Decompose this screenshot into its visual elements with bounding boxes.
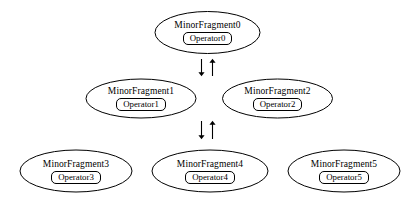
node-title-minor-fragment-2: MinorFragment2 — [244, 86, 310, 97]
operator-box-minor-fragment-0[interactable]: Operator0 — [183, 32, 233, 45]
operator-box-minor-fragment-4[interactable]: Operator4 — [185, 171, 235, 184]
node-title-minor-fragment-3: MinorFragment3 — [43, 159, 109, 170]
node-minor-fragment-4[interactable]: MinorFragment4 Operator4 — [152, 150, 268, 192]
node-minor-fragment-1[interactable]: MinorFragment1 Operator1 — [86, 79, 196, 118]
node-minor-fragment-5[interactable]: MinorFragment5 Operator5 — [288, 150, 400, 192]
node-title-minor-fragment-4: MinorFragment4 — [177, 159, 243, 170]
operator-box-minor-fragment-3[interactable]: Operator3 — [51, 171, 101, 184]
connector-group — [202, 59, 213, 139]
operator-box-minor-fragment-1[interactable]: Operator1 — [116, 98, 166, 111]
diagram-canvas: MinorFragment0 Operator0 MinorFragment1 … — [0, 0, 412, 205]
node-title-minor-fragment-1: MinorFragment1 — [108, 86, 174, 97]
node-minor-fragment-0[interactable]: MinorFragment0 Operator0 — [155, 12, 260, 54]
node-minor-fragment-3[interactable]: MinorFragment3 Operator3 — [20, 150, 132, 192]
node-minor-fragment-2[interactable]: MinorFragment2 Operator2 — [223, 79, 333, 118]
operator-box-minor-fragment-2[interactable]: Operator2 — [253, 98, 303, 111]
node-title-minor-fragment-5: MinorFragment5 — [311, 159, 377, 170]
node-title-minor-fragment-0: MinorFragment0 — [174, 20, 240, 31]
operator-box-minor-fragment-5[interactable]: Operator5 — [319, 171, 369, 184]
